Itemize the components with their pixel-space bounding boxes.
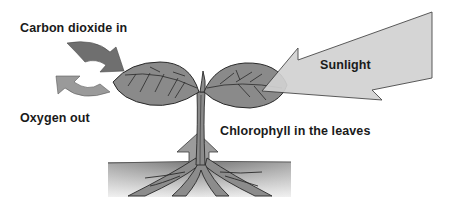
photosynthesis-diagram: Carbon dioxide in Oxygen out Sunlight Ch…	[0, 0, 453, 200]
carbon-dioxide-arrow-icon	[67, 42, 124, 72]
left-leaf	[113, 62, 199, 105]
sunlight-arrow-icon	[262, 12, 432, 100]
oxygen-arrow-icon	[56, 76, 110, 96]
stem	[196, 71, 205, 165]
oxygen-label: Oxygen out	[20, 111, 90, 125]
carbon-dioxide-label: Carbon dioxide in	[20, 21, 127, 35]
sunlight-label: Sunlight	[320, 58, 371, 72]
chlorophyll-label: Chlorophyll in the leaves	[220, 124, 370, 138]
